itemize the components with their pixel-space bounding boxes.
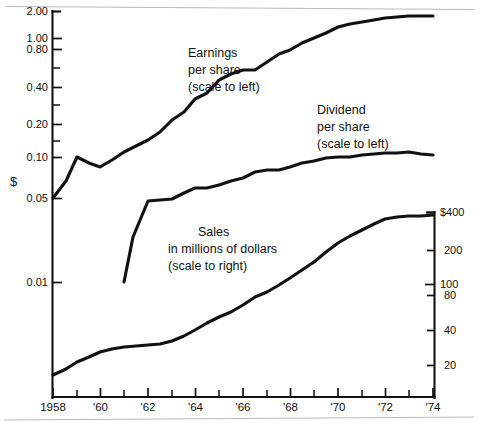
- left-tick-label-6: 0.05: [27, 192, 48, 204]
- left-tick-label-0: 2.00: [27, 5, 48, 17]
- x-tick-label-1: '60: [93, 401, 108, 413]
- sales-annotation-line-0: Sales: [198, 225, 229, 239]
- earnings-annotation-line-2: (scale to left): [188, 80, 260, 94]
- x-axis-tick-labels: 1958 '60 '62 '64 '66 '68 '70 '72 '74: [40, 401, 441, 413]
- right-tick-label-4: 40: [444, 324, 456, 336]
- earnings-annotation-line-1: per share: [188, 63, 241, 77]
- right-tick-label-3: 80: [444, 289, 456, 301]
- left-tick-label-2: 0.80: [27, 43, 48, 55]
- right-tick-label-0: $400: [440, 206, 464, 218]
- earnings-annotation-line-0: Earnings: [188, 46, 237, 60]
- left-tick-label-4: 0.20: [27, 118, 48, 130]
- right-tick-label-1: 200: [444, 244, 462, 256]
- x-tick-label-5: '68: [283, 401, 298, 413]
- x-tick-label-4: '66: [236, 401, 251, 413]
- sales-annotation-line-2: (scale to right): [168, 259, 247, 273]
- x-tick-label-3: '64: [188, 401, 204, 413]
- dividend-annotation-line-0: Dividend: [317, 103, 366, 117]
- x-tick-label-7: '72: [378, 401, 393, 413]
- chart-canvas: 2.00 1.00 0.80 0.40 0.20 0.10 0.05 0.01 …: [0, 0, 480, 430]
- x-tick-label-8: '74: [426, 401, 442, 413]
- dividend-annotation-line-1: per share: [317, 120, 370, 134]
- x-tick-label-0: 1958: [40, 401, 66, 413]
- left-tick-label-3: 0.40: [27, 81, 48, 93]
- x-tick-label-6: '70: [331, 401, 346, 413]
- left-tick-label-5: 0.10: [27, 151, 48, 163]
- dividend-annotation-line-2: (scale to left): [317, 137, 389, 151]
- right-tick-label-5: 20: [444, 359, 456, 371]
- left-axis-unit-label: $: [10, 174, 18, 189]
- left-tick-label-7: 0.01: [27, 276, 48, 288]
- stock-performance-chart: 2.00 1.00 0.80 0.40 0.20 0.10 0.05 0.01 …: [0, 0, 480, 430]
- sales-annotation-line-1: in millions of dollars: [168, 242, 277, 256]
- x-tick-label-2: '62: [141, 401, 156, 413]
